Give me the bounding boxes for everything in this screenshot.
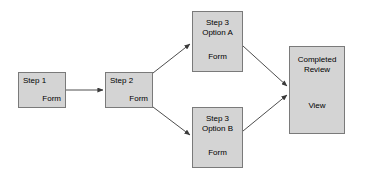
- node-step-3-option-a[interactable]: Step 3 Option A Form: [192, 11, 243, 72]
- edge-step2-to-option-a: [153, 44, 190, 73]
- node-step-3-option-b[interactable]: Step 3 Option B Form: [192, 107, 243, 168]
- node-step-3-option-b-action: Form: [193, 148, 242, 158]
- edge-option-b-to-completed: [243, 95, 287, 131]
- node-completed-review[interactable]: Completed Review View: [289, 46, 345, 134]
- node-completed-review-title: Completed Review: [290, 55, 344, 75]
- node-step-1-title: Step 1: [23, 76, 46, 86]
- node-step-2-action: Form: [129, 94, 148, 104]
- node-completed-review-action: View: [290, 101, 344, 111]
- edge-step2-to-option-b: [153, 107, 190, 135]
- node-step-2[interactable]: Step 2 Form: [105, 72, 153, 108]
- edge-option-a-to-completed: [243, 46, 287, 86]
- node-step-3-option-b-title: Step 3 Option B: [193, 114, 242, 134]
- node-step-1[interactable]: Step 1 Form: [18, 72, 66, 108]
- node-step-2-title: Step 2: [110, 76, 133, 86]
- node-step-3-option-a-action: Form: [193, 52, 242, 62]
- flowchart-canvas: Step 1 Form Step 2 Form Step 3 Option A …: [0, 0, 366, 176]
- node-step-1-action: Form: [42, 94, 61, 104]
- node-step-3-option-a-title: Step 3 Option A: [193, 18, 242, 38]
